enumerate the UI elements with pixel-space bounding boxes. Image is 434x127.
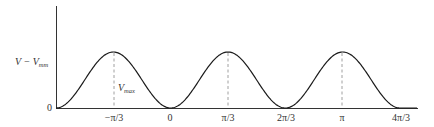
vmax-label-subscript: max — [124, 87, 135, 94]
x-tick-pi: π — [339, 113, 344, 123]
x-tick-4pi-3: 4π/3 — [392, 113, 410, 123]
y-axis-label: V − Vmm — [15, 57, 48, 68]
x-tick-neg-pi-3: −π/3 — [105, 113, 123, 123]
x-tick-2pi-3: 2π/3 — [277, 113, 295, 123]
potential-energy-diagram: V − Vmm 0 Vmax −π/3 0 π/3 2π/3 π 4π/3 — [0, 0, 434, 127]
x-tick-0: 0 — [168, 113, 173, 123]
potential-curve — [56, 52, 417, 108]
y-axis-label-subscript: mm — [39, 61, 48, 68]
plot-svg — [0, 0, 434, 127]
origin-label: 0 — [47, 103, 52, 113]
y-axis-label-main: V − V — [15, 56, 39, 67]
x-tick-pi-3: π/3 — [222, 113, 235, 123]
vmax-label: Vmax — [118, 83, 135, 94]
